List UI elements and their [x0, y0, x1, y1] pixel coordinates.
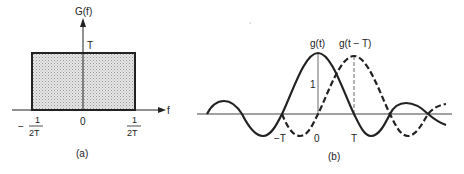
panel-b-caption: (b) — [328, 151, 340, 162]
amplitude-label: 1 — [310, 79, 316, 90]
g-t-minus-t-curve — [282, 56, 446, 136]
scan-speck — [249, 22, 250, 23]
g-t-minus-t-label: g(t − T) — [339, 38, 371, 49]
tick-t-label: T — [351, 133, 357, 144]
panel-b-pulses: g(t) g(t − T) 1 −T 0 T (b) — [197, 22, 452, 162]
origin-label: 0 — [80, 116, 86, 127]
right-edge-denominator: 2T — [127, 128, 138, 138]
f-axis-arrow-icon — [158, 107, 166, 113]
right-edge-numerator: 1 — [132, 115, 137, 125]
g-of-f-label: G(f) — [75, 6, 92, 17]
height-label: T — [87, 40, 93, 51]
f-axis-label: f — [167, 105, 170, 116]
g-t-curve — [207, 53, 446, 136]
panel-a-caption: (a) — [76, 148, 88, 159]
left-edge-numerator: 1 — [35, 115, 40, 125]
panel-a-spectrum: G(f) f T 0 − 1 2T 1 2T (a) — [12, 6, 170, 159]
left-edge-sign: − — [18, 121, 24, 132]
tick-zero-label: 0 — [314, 133, 320, 144]
figure: G(f) f T 0 − 1 2T 1 2T (a) g(t) g(t − T)… — [0, 0, 464, 174]
g-t-label: g(t) — [310, 38, 325, 49]
left-edge-denominator: 2T — [29, 128, 40, 138]
g-axis-arrow-icon — [80, 18, 86, 27]
tick-minus-t-label: −T — [274, 133, 286, 144]
